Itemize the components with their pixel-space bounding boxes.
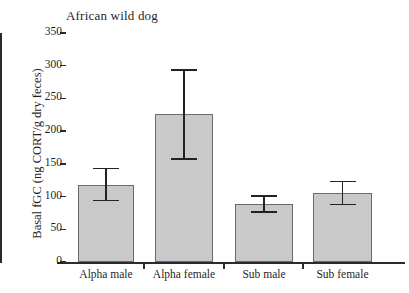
errorbar-stem	[263, 196, 265, 212]
y-tick-label: 150	[22, 156, 62, 168]
errorbar-cap-upper	[330, 181, 356, 183]
errorbar-stem	[183, 70, 185, 159]
y-tick-label: 250	[22, 90, 62, 102]
errorbar-stem	[342, 182, 344, 205]
errorbar-cap-upper	[251, 195, 277, 197]
chart-title: African wild dog	[66, 8, 158, 24]
y-tick-label: 350	[22, 25, 62, 37]
errorbar-cap-lower	[93, 200, 119, 202]
x-tick-label: Sub female	[283, 268, 403, 280]
x-axis-line	[57, 262, 405, 264]
errorbar-cap-lower	[330, 204, 356, 206]
y-axis-line	[0, 33, 2, 263]
errorbar-cap-lower	[171, 158, 197, 160]
errorbar-cap-upper	[93, 168, 119, 170]
chart-figure: African wild dog Basal fGC (ng CORT/g dr…	[0, 0, 409, 293]
errorbar-stem	[105, 168, 107, 200]
y-axis-title: Basal fGC (ng CORT/g dry feces)	[30, 39, 45, 269]
y-tick-label: 200	[22, 123, 62, 135]
errorbar-cap-lower	[251, 211, 277, 213]
errorbar-cap-upper	[171, 69, 197, 71]
y-tick-label: 300	[22, 58, 62, 70]
y-tick-label: 50	[22, 221, 62, 233]
y-tick-label: 100	[22, 189, 62, 201]
y-tick-label: 0	[22, 254, 62, 266]
